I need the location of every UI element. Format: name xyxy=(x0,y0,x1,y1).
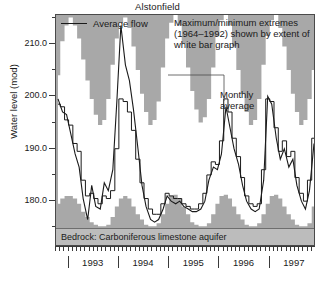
x-tick-label: 1994 xyxy=(132,257,153,268)
x-tick-month xyxy=(269,247,270,251)
x-tick-label: 1997 xyxy=(283,257,304,268)
x-tick-month xyxy=(156,247,157,251)
x-tick-month xyxy=(72,247,73,251)
chart-title: Alstonfield xyxy=(0,0,315,14)
x-tick-month xyxy=(311,247,312,251)
x-tick-month xyxy=(181,247,182,251)
x-tick-label: 1996 xyxy=(233,257,254,268)
y-tick-label: 210.0 xyxy=(24,38,47,47)
x-tick-month xyxy=(139,247,140,251)
x-tick-month xyxy=(122,247,123,251)
x-tick-month xyxy=(80,247,81,251)
x-tick-month xyxy=(68,247,69,251)
x-tick-month xyxy=(244,247,245,251)
x-tick-month xyxy=(248,247,249,251)
chart-root: Alstonfield 180.0190.0200.0210.0 Water l… xyxy=(0,0,315,286)
x-tick-month xyxy=(130,247,131,251)
x-tick-month xyxy=(260,247,261,251)
x-year-separator xyxy=(269,256,270,268)
x-tick-month xyxy=(147,247,148,251)
x-tick-month xyxy=(97,247,98,251)
y-tick-label: 200.0 xyxy=(24,91,47,100)
x-tick-month xyxy=(281,247,282,251)
x-tick-month xyxy=(302,247,303,251)
x-year-separator xyxy=(68,256,69,268)
x-tick-month xyxy=(114,247,115,251)
x-tick-month xyxy=(286,247,287,251)
x-tick-month xyxy=(135,247,136,251)
x-tick-month xyxy=(143,247,144,251)
x-tick-month xyxy=(239,247,240,251)
x-year-separator xyxy=(118,256,119,268)
x-tick-month xyxy=(164,247,165,251)
x-tick-month xyxy=(151,247,152,251)
x-tick-month xyxy=(294,247,295,251)
x-axis: 19931994199519961997 xyxy=(55,246,315,286)
x-tick-month xyxy=(76,247,77,251)
x-tick-month xyxy=(290,247,291,251)
x-tick-month xyxy=(126,247,127,251)
x-tick-month xyxy=(59,247,60,251)
legend-line-swatch xyxy=(61,23,87,24)
x-year-separator xyxy=(218,256,219,268)
x-tick-label: 1995 xyxy=(183,257,204,268)
x-tick-month xyxy=(227,247,228,251)
x-tick-month xyxy=(101,247,102,251)
x-tick-month xyxy=(189,247,190,251)
x-tick-month xyxy=(307,247,308,251)
x-tick-month xyxy=(298,247,299,251)
x-tick-month xyxy=(256,247,257,251)
x-tick-label: 1993 xyxy=(82,257,103,268)
x-tick-month xyxy=(160,247,161,251)
x-tick-month xyxy=(265,247,266,251)
bedrock-band: Bedrock: Carboniferous limestone aquifer xyxy=(56,228,315,245)
x-tick-month xyxy=(93,247,94,251)
x-tick-month xyxy=(118,247,119,251)
x-tick-month xyxy=(55,247,56,251)
x-tick-month xyxy=(210,247,211,251)
y-tick-label: 190.0 xyxy=(24,143,47,152)
x-tick-month xyxy=(223,247,224,251)
x-tick-month xyxy=(110,247,111,251)
x-tick-month xyxy=(214,247,215,251)
plot-area: Average flow Maximum/minimum extremes (1… xyxy=(55,14,315,246)
x-tick-month xyxy=(218,247,219,251)
x-tick-month xyxy=(172,247,173,251)
x-tick-month xyxy=(168,247,169,251)
x-tick-month xyxy=(89,247,90,251)
legend: Average flow xyxy=(61,18,148,29)
x-tick-month xyxy=(252,247,253,251)
bedrock-label: Bedrock: Carboniferous limestone aquifer xyxy=(61,232,227,243)
annotation-extremes: Maximum/minimum extremes (1964–1992) sho… xyxy=(174,17,314,51)
x-tick-month xyxy=(273,247,274,251)
x-tick-month xyxy=(206,247,207,251)
annotation-monthly-average: Monthly average xyxy=(220,89,282,111)
x-tick-month xyxy=(231,247,232,251)
x-tick-month xyxy=(235,247,236,251)
x-tick-month xyxy=(185,247,186,251)
x-year-separator xyxy=(168,256,169,268)
x-tick-month xyxy=(202,247,203,251)
legend-label-average-flow: Average flow xyxy=(93,18,148,29)
x-tick-month xyxy=(193,247,194,251)
y-tick-label: 180.0 xyxy=(24,196,47,205)
x-tick-month xyxy=(63,247,64,251)
y-axis-title: Water level (mod) xyxy=(8,27,19,177)
x-tick-month xyxy=(177,247,178,251)
x-tick-month xyxy=(105,247,106,251)
x-tick-month xyxy=(198,247,199,251)
x-tick-month xyxy=(84,247,85,251)
x-tick-month xyxy=(277,247,278,251)
